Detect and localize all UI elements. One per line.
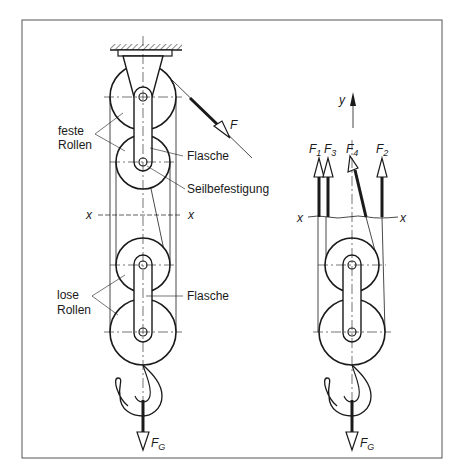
force-F-arrow-shaft [190,98,219,126]
label-seilbefestigung: Seilbefestigung [187,182,269,196]
force-F4-head [348,156,358,172]
label-F2: F2 [376,142,388,158]
label-flasche-upper: Flasche [187,149,229,163]
force-F3-head [323,158,333,177]
y-axis-arrowhead [350,92,356,106]
label-F1: F1 [309,142,321,158]
weight-arrowhead [137,432,149,450]
label-F4: F4 [346,142,358,158]
label-lose: lose [57,288,79,302]
force-F2-head [377,158,387,177]
force-F1-head [314,158,324,177]
right-hook [325,365,371,416]
hook [116,365,162,416]
label-rollen-fixed: Rollen [58,138,92,152]
label-x-right-right: x [399,211,407,225]
label-x-left-right: x [296,211,304,225]
section-line-right [308,216,398,218]
pulley-diagram: feste Rollen Flasche Seilbefestigung x x… [0,0,462,474]
figure-frame [22,20,442,458]
label-y-axis: y [338,93,346,107]
label-force-F: F [230,118,238,132]
force-F4-shaft [355,170,366,217]
label-feste: feste [58,124,84,138]
right-weight-arrowhead [346,432,358,450]
mount-plate [118,50,172,56]
label-F3: F3 [324,142,336,158]
label-x-left: x [85,208,93,222]
left-assembly [92,36,252,450]
label-x-right: x [187,208,195,222]
label-FG-right: FG [360,436,374,452]
label-flasche-lower: Flasche [187,289,229,303]
ceiling-hatch [110,44,182,50]
label-rollen-loose: Rollen [57,303,91,317]
label-FG-left: FG [151,436,165,452]
